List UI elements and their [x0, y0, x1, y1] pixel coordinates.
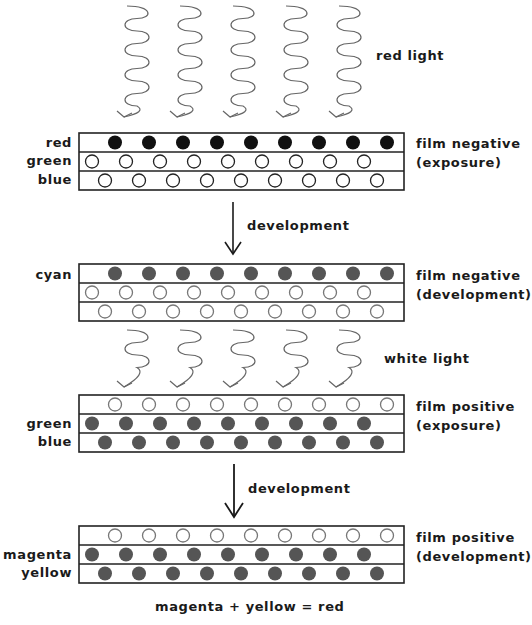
wavy-light-arrow-icon: [276, 330, 308, 387]
filled-grain-dot: [289, 548, 303, 562]
filled-grain-dot: [98, 436, 112, 450]
filled-grain-dot: [166, 436, 180, 450]
filled-grain-dot: [187, 417, 201, 431]
empty-grain-dot: [279, 398, 292, 411]
empty-grain-dot: [109, 398, 122, 411]
emulsion-layer-row: [108, 136, 394, 150]
layer-label-blue: blue: [0, 432, 72, 451]
wavy-light-arrow-icon: [223, 330, 255, 387]
stage-title-line2: (development): [416, 285, 532, 304]
empty-grain-dot: [86, 155, 99, 168]
empty-grain-dot: [201, 174, 214, 187]
filled-grain-dot: [142, 267, 156, 281]
filled-grain-dot: [108, 267, 122, 281]
layer-label-blue: blue: [0, 170, 72, 189]
empty-grain-dot: [381, 398, 394, 411]
empty-grain-dot: [99, 174, 112, 187]
filled-grain-dot: [312, 267, 326, 281]
stage-title-line2: (exposure): [416, 153, 521, 172]
empty-grain-dot: [256, 155, 269, 168]
filled-grain-dot: [370, 436, 384, 450]
emulsion-layer-row: [99, 305, 384, 318]
empty-grain-dot: [188, 155, 201, 168]
empty-grain-dot: [269, 174, 282, 187]
wavy-light-arrow-icon: [223, 6, 255, 117]
empty-grain-dot: [290, 286, 303, 299]
filled-grain-dot: [200, 436, 214, 450]
empty-grain-dot: [324, 286, 337, 299]
white-light-wave-arrows: [117, 330, 361, 387]
layer-label-green: green: [0, 151, 72, 170]
filled-grain-dot: [323, 417, 337, 431]
wavy-light-arrow-icon: [329, 6, 361, 117]
filled-grain-dot: [380, 136, 394, 150]
layer-label-red: red: [0, 133, 72, 152]
stage-title-line1: film negative: [416, 266, 532, 285]
filled-grain-dot: [255, 548, 269, 562]
emulsion-layer-row: [98, 567, 384, 581]
filled-grain-dot: [234, 567, 248, 581]
empty-grain-dot: [324, 155, 337, 168]
empty-grain-dot: [120, 155, 133, 168]
layer-label-magenta: magenta: [0, 545, 72, 564]
empty-grain-dot: [143, 398, 156, 411]
empty-grain-dot: [381, 529, 394, 542]
empty-grain-dot: [154, 155, 167, 168]
development-step-label: development: [248, 479, 351, 498]
filled-grain-dot: [210, 136, 224, 150]
filled-grain-dot: [302, 436, 316, 450]
stage-title-film-positive-exposure: film positive (exposure): [416, 397, 515, 435]
empty-grain-dot: [133, 305, 146, 318]
filled-grain-dot: [85, 548, 99, 562]
color-equation: magenta + yellow = red: [155, 597, 344, 616]
empty-grain-dot: [337, 305, 350, 318]
filled-grain-dot: [210, 267, 224, 281]
empty-grain-dot: [211, 398, 224, 411]
filled-grain-dot: [357, 417, 371, 431]
filled-grain-dot: [244, 267, 258, 281]
development-step-label: development: [247, 216, 350, 235]
empty-grain-dot: [371, 305, 384, 318]
empty-grain-dot: [279, 529, 292, 542]
empty-grain-dot: [188, 286, 201, 299]
filled-grain-dot: [312, 136, 326, 150]
filled-grain-dot: [268, 436, 282, 450]
filled-grain-dot: [108, 136, 122, 150]
filled-grain-dot: [221, 417, 235, 431]
film-strip: [79, 395, 404, 452]
empty-grain-dot: [313, 529, 326, 542]
filled-grain-dot: [98, 567, 112, 581]
red-light-label: red light: [376, 46, 444, 65]
empty-grain-dot: [256, 286, 269, 299]
emulsion-layer-row: [99, 174, 384, 187]
stage-title-film-positive-development: film positive (development): [416, 528, 532, 566]
empty-grain-dot: [290, 155, 303, 168]
layer-label-cyan: cyan: [0, 265, 72, 284]
filled-grain-dot: [370, 567, 384, 581]
stage-title-line2: (exposure): [416, 416, 515, 435]
empty-grain-dot: [347, 529, 360, 542]
filled-grain-dot: [119, 417, 133, 431]
filled-grain-dot: [119, 548, 133, 562]
stage-title-line2: (development): [416, 547, 532, 566]
filled-grain-dot: [244, 136, 258, 150]
stage-title-line1: film negative: [416, 134, 521, 153]
filled-grain-dot: [289, 417, 303, 431]
stage-title-film-negative-exposure: film negative (exposure): [416, 134, 521, 172]
filled-grain-dot: [187, 548, 201, 562]
emulsion-layer-row: [85, 548, 371, 562]
filled-grain-dot: [153, 548, 167, 562]
filled-grain-dot: [380, 267, 394, 281]
empty-grain-dot: [235, 174, 248, 187]
empty-grain-dot: [245, 529, 258, 542]
emulsion-layer-row: [86, 155, 371, 168]
filled-grain-dot: [336, 436, 350, 450]
empty-grain-dot: [177, 398, 190, 411]
empty-grain-dot: [337, 174, 350, 187]
empty-grain-dot: [313, 398, 326, 411]
empty-grain-dot: [245, 398, 258, 411]
filled-grain-dot: [346, 136, 360, 150]
film-strip: [79, 526, 404, 583]
filled-grain-dot: [234, 436, 248, 450]
stage-title-film-negative-development: film negative (development): [416, 266, 532, 304]
